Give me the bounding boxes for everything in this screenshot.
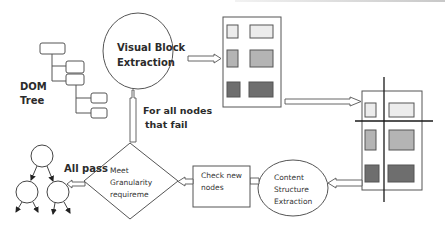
dom-tree-label: DOM Tree [20,80,47,108]
arrow-left-icon [250,178,259,184]
check-new-nodes-label: Check new nodes [201,170,242,194]
arrow-left-icon [67,180,85,188]
visual-block-label-line1: Visual Block [117,40,185,55]
arrow-left-icon [178,177,193,186]
arrow-right-icon [188,54,221,63]
content-label-line2: Structure [274,184,312,196]
granularity-decision-label: Meet Granularity requireme [110,165,152,201]
arrow-right-icon [285,97,361,106]
check-label-line1: Check new [201,170,242,182]
arrow-up-icon [130,90,136,142]
content-structure-extraction-label: Content Structure Extraction [274,172,312,208]
content-label-line3: Extraction [274,196,312,208]
diamond-label-line2: Granularity [110,177,152,189]
content-label-line1: Content [274,172,312,184]
flow-diagram [0,0,445,232]
layout-blocks-node [223,17,281,107]
arrow-left-icon [328,178,362,188]
layout-separators-node [362,91,422,190]
fail-label-line2: that fail [143,118,212,132]
content-tree-icon [16,145,70,214]
dom-tree-label-line1: DOM [20,80,47,94]
dom-tree-icon [40,43,107,118]
diamond-label-line3: requireme [110,189,152,201]
fail-label-line1: For all nodes [143,104,212,118]
dom-tree-label-line2: Tree [20,94,47,108]
visual-block-extraction-label: Visual Block Extraction [117,40,185,70]
diamond-label-line1: Meet [110,165,152,177]
check-label-line2: nodes [201,182,242,194]
fail-edge-label: For all nodes that fail [143,104,212,132]
all-pass-label: All pass [64,164,108,174]
visual-block-label-line2: Extraction [117,55,185,70]
